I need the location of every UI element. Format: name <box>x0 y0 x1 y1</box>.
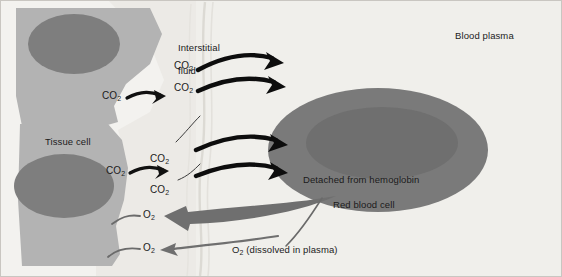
detached-from-hemoglobin-label: Detached from hemoglobin <box>303 174 419 186</box>
gas-exchange-diagram: Interstitial fluid Blood plasma Tissue c… <box>0 0 562 277</box>
tissue-cell-label: Tissue cell <box>45 136 91 148</box>
co2-label-fluid-4: CO2 <box>150 184 169 197</box>
tissue-cell-lower-nucleus <box>14 154 114 218</box>
o2-label-cell-upper: O2 <box>143 209 155 222</box>
co2-label-tissue-lower: CO2 <box>106 165 125 178</box>
co2-label-tissue-upper: CO2 <box>102 90 121 103</box>
blood-plasma-label: Blood plasma <box>455 30 514 42</box>
co2-label-fluid-1: CO2 <box>174 60 193 73</box>
co2-label-fluid-2: CO2 <box>174 82 193 95</box>
red-blood-cell-label: Red blood cell <box>333 199 395 211</box>
red-blood-cell-dimple <box>306 107 458 179</box>
o2-label-cell-lower: O2 <box>143 242 155 255</box>
co2-label-fluid-3: CO2 <box>150 153 169 166</box>
tissue-cell-upper-nucleus <box>28 14 120 74</box>
o2-dissolved-in-plasma-label: O2 (dissolved in plasma) <box>232 244 338 257</box>
